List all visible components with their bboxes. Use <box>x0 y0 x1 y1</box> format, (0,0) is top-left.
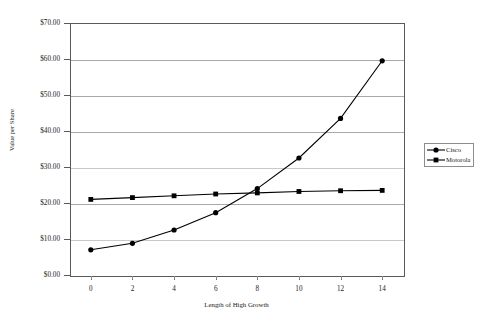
y-tick-label: $10.00 <box>40 235 60 243</box>
chart-legend: CiscoMotorola <box>424 143 474 167</box>
gridline-y-10 <box>71 240 404 241</box>
y-axis-title: Value per Share <box>8 95 16 165</box>
x-tick-label: 10 <box>284 285 314 294</box>
y-tick-mark <box>64 203 70 204</box>
x-tick-label: 12 <box>326 285 356 294</box>
x-tick-mark-minor <box>257 276 258 279</box>
gridline-y-50 <box>71 96 404 97</box>
y-tick-label: $30.00 <box>40 163 60 171</box>
circle-marker-icon <box>426 145 446 155</box>
y-tick-label: $60.00 <box>40 55 60 63</box>
gridline-y-20 <box>71 204 404 205</box>
gridline-y-30 <box>71 168 404 169</box>
y-tick-mark <box>64 239 70 240</box>
x-tick-label: 14 <box>367 285 397 294</box>
x-axis-title: Length of High Growth <box>70 300 403 309</box>
legend-item-cisco[interactable]: Cisco <box>426 145 471 155</box>
gridline-y-60 <box>71 60 404 61</box>
y-tick-label: $70.00 <box>40 19 60 27</box>
legend-label: Cisco <box>446 146 461 154</box>
x-tick-mark-minor <box>341 276 342 279</box>
y-tick-label: $20.00 <box>40 199 60 207</box>
x-tick-label: 4 <box>159 285 189 294</box>
x-tick-mark-minor <box>299 276 300 279</box>
legend-label: Motorola <box>446 156 471 164</box>
x-axis: Length of High Growth 02468101214 <box>0 276 492 316</box>
x-tick-label: 8 <box>242 285 272 294</box>
legend-item-motorola[interactable]: Motorola <box>426 155 471 165</box>
plot-area <box>70 23 405 277</box>
square-marker-icon <box>426 155 446 165</box>
x-tick-mark-minor <box>216 276 217 279</box>
x-tick-mark-minor <box>174 276 175 279</box>
y-tick-label: $50.00 <box>40 91 60 99</box>
y-tick-mark <box>64 23 70 24</box>
y-tick-mark <box>64 131 70 132</box>
y-tick-mark <box>64 59 70 60</box>
x-tick-label: 6 <box>201 285 231 294</box>
x-tick-mark-minor <box>91 276 92 279</box>
y-tick-mark <box>64 95 70 96</box>
gridline-y-40 <box>71 132 404 133</box>
x-tick-mark-minor <box>132 276 133 279</box>
x-tick-mark-minor <box>382 276 383 279</box>
x-tick-label: 2 <box>117 285 147 294</box>
y-tick-mark <box>64 167 70 168</box>
chart-container: $0.00$10.00$20.00$30.00$40.00$50.00$60.0… <box>0 0 492 320</box>
x-tick-label: 0 <box>76 285 106 294</box>
y-tick-label: $40.00 <box>40 127 60 135</box>
